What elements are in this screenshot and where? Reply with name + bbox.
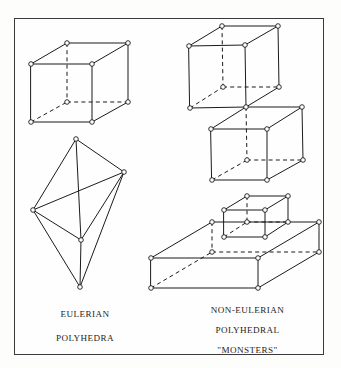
cube-edge-br bbox=[92, 102, 128, 122]
box-vertex bbox=[222, 235, 227, 240]
cube-vertex bbox=[126, 41, 131, 46]
lower-cube-vertex bbox=[301, 158, 306, 163]
cube-vertex bbox=[90, 62, 95, 67]
upper-cube-back-top-edges bbox=[222, 26, 279, 87]
box-vertex bbox=[263, 235, 268, 240]
upper-cube-vertex bbox=[188, 106, 193, 111]
bipyramid-edge bbox=[80, 240, 81, 287]
bipyramid-edge bbox=[33, 139, 76, 210]
caption-right-line-3: "MONSTERS" bbox=[160, 346, 335, 355]
bipyramid-edge bbox=[80, 172, 124, 287]
bipyramid-edge bbox=[81, 172, 124, 240]
lower-cube-edge bbox=[267, 107, 302, 129]
slab-vertex bbox=[149, 286, 154, 291]
box-vertex bbox=[222, 208, 227, 213]
cube-vertex bbox=[90, 120, 95, 125]
shape-slab-with-box bbox=[149, 194, 322, 291]
shape-cube-eulerian bbox=[29, 41, 131, 125]
slab-edge-bottom-right bbox=[258, 252, 319, 288]
slab-edge-top-left bbox=[151, 222, 212, 258]
slab-vertex bbox=[256, 256, 261, 261]
cube-vertex bbox=[126, 100, 131, 105]
slab-hidden-diagonal bbox=[151, 252, 212, 288]
bipyramid-vertex bbox=[79, 238, 84, 243]
upper-cube-edge bbox=[245, 26, 278, 45]
bipyramid-edge bbox=[76, 139, 81, 240]
box-vertex bbox=[245, 220, 250, 225]
lower-cube-edge bbox=[267, 160, 303, 180]
slab-front-face bbox=[151, 258, 258, 288]
shape-two-cubes-lower bbox=[209, 105, 306, 183]
slab-vertex bbox=[210, 250, 215, 255]
bipyramid-edge bbox=[33, 210, 80, 287]
lower-cube-vertex bbox=[265, 127, 270, 132]
box-edge bbox=[265, 196, 288, 210]
shape-two-cubes-upper bbox=[187, 24, 282, 111]
box-edge bbox=[224, 196, 247, 210]
cube-vertex bbox=[29, 62, 34, 67]
box-vertex bbox=[245, 194, 250, 199]
caption-left-line-2: POLYHEDRA bbox=[0, 334, 170, 343]
upper-cube-vertex bbox=[276, 24, 281, 29]
lower-cube-front-face bbox=[211, 129, 267, 180]
upper-cube-hidden-vertical bbox=[222, 26, 223, 87]
bipyramid-vertex bbox=[31, 208, 36, 213]
lower-cube-back-top-edges bbox=[246, 107, 303, 160]
cube-front-face-edges bbox=[31, 64, 92, 122]
bipyramid-vertex bbox=[78, 285, 83, 290]
cube-back-top-edges bbox=[67, 43, 128, 102]
upper-cube-hidden-diagonal bbox=[190, 87, 223, 108]
upper-cube-front-face bbox=[189, 45, 246, 108]
figure-page: .solid { stroke: #1b1b1b; stroke-width: … bbox=[0, 0, 341, 368]
upper-cube-vertex bbox=[243, 43, 248, 48]
box-vertex bbox=[286, 194, 291, 199]
box-hidden-diagonal bbox=[224, 222, 247, 237]
slab-vertex bbox=[149, 256, 154, 261]
box-edge bbox=[265, 222, 288, 237]
box-vertex bbox=[286, 220, 291, 225]
caption-right-line-2: POLYHEDRAL bbox=[160, 326, 335, 335]
caption-left-line-1: EULERIAN bbox=[0, 310, 170, 319]
lower-cube-hidden-diagonal bbox=[212, 160, 247, 180]
lower-cube-vertex bbox=[245, 158, 250, 163]
caption-right-line-1: NON-EULERIAN bbox=[160, 306, 335, 315]
upper-cube-vertex bbox=[187, 44, 192, 49]
cube-edge-tl bbox=[31, 43, 67, 64]
cube-vertex bbox=[29, 120, 34, 125]
lower-cube-hidden-vertical bbox=[246, 107, 247, 160]
slab-edge-top-right bbox=[258, 222, 319, 258]
lower-cube-vertex bbox=[209, 127, 214, 132]
lower-cube-vertex bbox=[300, 105, 305, 110]
bipyramid-edge bbox=[33, 210, 81, 240]
lower-cube-vertex bbox=[210, 178, 215, 183]
shared-junction-vertex bbox=[244, 105, 249, 110]
upper-cube-edge bbox=[246, 87, 279, 107]
lower-cube-edge bbox=[211, 107, 246, 129]
upper-cube-edge bbox=[189, 26, 222, 46]
slab-vertex bbox=[317, 250, 322, 255]
bipyramid-edge bbox=[33, 172, 124, 210]
box-vertex bbox=[263, 208, 268, 213]
slab-vertex bbox=[317, 220, 322, 225]
bipyramid-vertex bbox=[74, 137, 79, 142]
cube-vertex bbox=[65, 41, 70, 46]
upper-cube-vertex bbox=[277, 85, 282, 90]
lower-cube-vertex bbox=[265, 178, 270, 183]
shape-triangular-bipyramid-eulerian bbox=[31, 137, 127, 290]
slab-vertex bbox=[210, 220, 215, 225]
cube-hidden-diagonal bbox=[31, 102, 67, 122]
upper-cube-vertex bbox=[220, 24, 225, 29]
bipyramid-vertex bbox=[122, 170, 127, 175]
cube-vertex bbox=[65, 100, 70, 105]
slab-vertex bbox=[256, 286, 261, 291]
upper-cube-vertex bbox=[221, 85, 226, 90]
cube-edge-tr bbox=[92, 43, 128, 64]
bipyramid-edge bbox=[76, 139, 124, 172]
